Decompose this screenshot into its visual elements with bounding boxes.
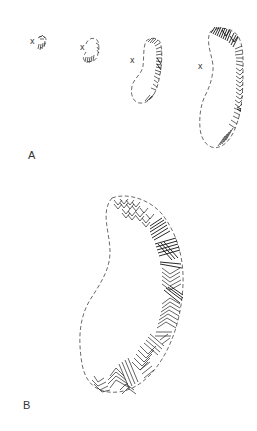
panel-a-stage-1 xyxy=(38,35,46,50)
stage-4-marker: x xyxy=(198,62,203,71)
panel-a-stage-4 xyxy=(200,27,243,148)
panel-b-label: B xyxy=(23,399,30,411)
stage-1-marker: x xyxy=(30,37,35,46)
panel-a-stage-3 xyxy=(131,38,162,103)
panel-a-label: A xyxy=(28,149,35,161)
stage-3-marker: x xyxy=(130,56,135,65)
panel-a-stage-2 xyxy=(83,38,99,63)
panel-b-shape xyxy=(80,196,183,394)
figure: x x x x A B xyxy=(0,0,257,431)
stage-2-marker: x xyxy=(80,43,85,52)
figure-drawing xyxy=(0,0,257,431)
